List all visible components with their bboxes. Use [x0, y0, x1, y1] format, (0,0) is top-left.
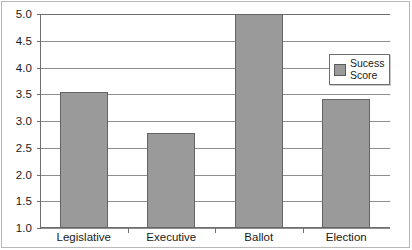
x-axis-tick-label: Ballot [244, 231, 273, 243]
y-axis-labels: 5.04.54.03.53.02.52.01.51.0 [0, 14, 36, 228]
y-axis-tick [37, 41, 41, 42]
y-axis-tick [37, 148, 41, 149]
y-axis-tick-label: 2.5 [16, 142, 32, 154]
x-axis-tick-label: Election [326, 231, 367, 243]
y-axis-tick [37, 175, 41, 176]
y-axis-tick [37, 94, 41, 95]
bar-chart: 5.04.54.03.53.02.52.01.51.0 LegislativeE… [0, 0, 412, 250]
y-axis-tick [37, 201, 41, 202]
x-axis-tick [303, 228, 304, 233]
legend-label-line2: Score [350, 70, 384, 82]
y-axis-tick [37, 68, 41, 69]
x-axis-tick [128, 228, 129, 233]
x-axis-tick-label: Executive [146, 231, 196, 243]
x-axis-tick [215, 228, 216, 233]
gridline [41, 94, 390, 95]
legend[interactable]: Sucess Score [329, 54, 390, 85]
y-axis-tick [37, 228, 41, 229]
y-axis-tick-label: 5.0 [16, 8, 32, 20]
x-axis-tick-label: Legislative [57, 231, 111, 243]
gridline [41, 41, 390, 42]
y-axis-tick-label: 3.5 [16, 88, 32, 100]
legend-label-line1: Sucess [350, 58, 384, 70]
y-axis-tick-label: 4.5 [16, 35, 32, 47]
gridline [41, 148, 390, 149]
plot-area [40, 14, 390, 228]
gridline [41, 201, 390, 202]
legend-swatch-icon [334, 64, 346, 76]
gridline [41, 175, 390, 176]
y-axis-tick-label: 1.5 [16, 195, 32, 207]
y-axis-tick [37, 121, 41, 122]
y-axis-tick-label: 1.0 [16, 222, 32, 234]
legend-label: Sucess Score [350, 58, 384, 81]
y-axis-tick-label: 2.0 [16, 169, 32, 181]
gridline [41, 121, 390, 122]
y-axis-tick [37, 14, 41, 15]
gridline [41, 14, 390, 15]
y-axis-tick-label: 4.0 [16, 62, 32, 74]
y-axis-tick-label: 3.0 [16, 115, 32, 127]
x-axis-labels: LegislativeExecutiveBallotElection [40, 231, 390, 250]
